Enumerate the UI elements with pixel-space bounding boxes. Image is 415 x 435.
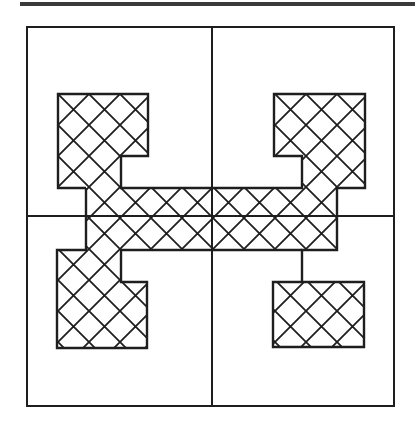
top-rule — [20, 2, 415, 6]
diagram — [0, 0, 415, 435]
